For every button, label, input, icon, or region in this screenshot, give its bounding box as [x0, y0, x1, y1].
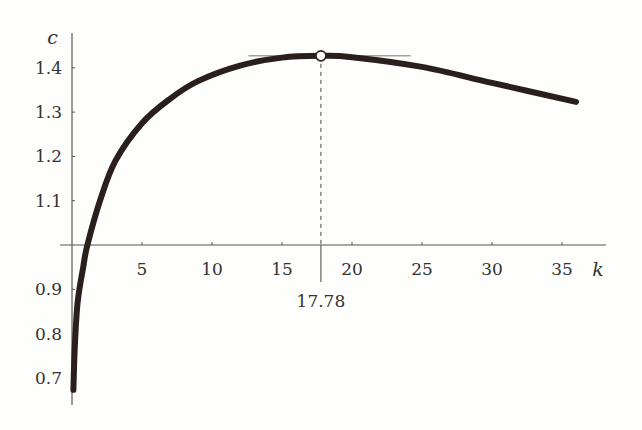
- y-tick-label: 1.3: [35, 102, 62, 122]
- y-tick-label: 1.2: [35, 146, 62, 166]
- y-axis-label: c: [47, 26, 58, 48]
- x-tick-label: 10: [201, 259, 223, 279]
- y-tick-label: 1.4: [35, 58, 62, 78]
- max-point: [316, 51, 326, 61]
- x-tick-label: 30: [481, 259, 503, 279]
- x-tick-label: 15: [271, 259, 293, 279]
- labels: 51015202530350.70.80.91.11.21.31.4ck17.7…: [35, 26, 604, 388]
- y-tick-label: 0.8: [35, 324, 62, 344]
- chart: 51015202530350.70.80.91.11.21.31.4ck17.7…: [0, 0, 642, 430]
- ticks: [72, 68, 562, 378]
- max-k-label: 17.78: [297, 291, 346, 311]
- x-tick-label: 35: [551, 259, 573, 279]
- annotations: [248, 56, 410, 282]
- x-axis-label: k: [592, 258, 604, 280]
- y-tick-label: 1.1: [35, 191, 62, 211]
- x-tick-label: 20: [341, 259, 363, 279]
- series: [73, 51, 576, 390]
- x-tick-label: 25: [411, 259, 433, 279]
- series-line-c-of-k: [73, 56, 576, 390]
- y-tick-label: 0.7: [35, 368, 62, 388]
- x-tick-label: 5: [137, 259, 148, 279]
- y-tick-label: 0.9: [35, 279, 62, 299]
